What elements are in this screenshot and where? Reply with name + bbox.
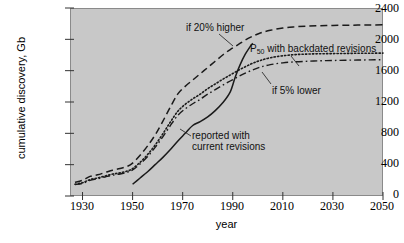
annotation-p50-subscript: 50	[257, 48, 265, 55]
leader-line-higher	[219, 34, 233, 46]
leader-line-reported	[180, 129, 191, 136]
annotation-if-20-higher: if 20% higher	[186, 22, 244, 33]
annotation-reported-line2: current revisions	[192, 141, 265, 152]
annotation-p50-suffix: with backdated revisions	[264, 43, 376, 54]
annotation-p50-prefix: P	[250, 43, 257, 54]
annotation-reported-current: reported withcurrent revisions	[192, 130, 265, 152]
series-line-reported-with-current-revisions	[133, 43, 253, 184]
series-line-if-5-lower	[75, 60, 383, 185]
annotation-if-5-lower: if 5% lower	[272, 85, 321, 96]
leader-line-lower	[262, 72, 271, 84]
annotation-p50-backdated: P50 with backdated revisions	[250, 43, 376, 55]
axis-ticks	[65, 8, 383, 200]
annotation-reported-line1: reported with	[192, 130, 250, 141]
series-line-p50-with-backdated-revisions	[75, 53, 383, 184]
